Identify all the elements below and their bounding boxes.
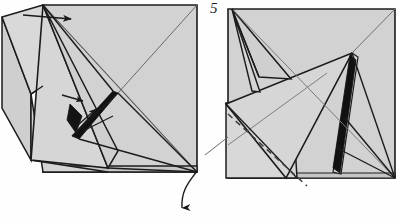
turn-over-curved-arrow bbox=[182, 171, 197, 208]
origami-diagram-figure: 5 bbox=[0, 0, 399, 221]
step-number-label: 5 bbox=[210, 1, 218, 16]
panel-right-group bbox=[205, 9, 395, 186]
diagram-canvas bbox=[0, 0, 399, 221]
right-connector-line bbox=[205, 137, 228, 155]
panel-left-group bbox=[2, 5, 197, 208]
